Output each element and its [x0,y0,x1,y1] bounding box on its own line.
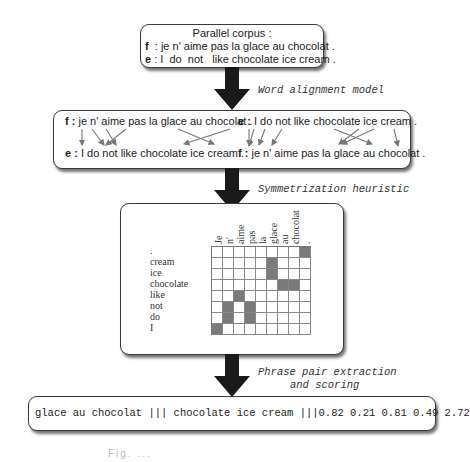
matrix-cell [289,302,300,313]
matrix-cell [245,269,256,280]
matrix-cell [245,280,256,291]
phrase-extraction-label-2: and scoring [290,379,359,391]
matrix-cell [289,258,300,269]
alignment-arrows [54,111,410,168]
matrix-cell [267,302,278,313]
matrix-cell [267,313,278,324]
matrix-cell [278,269,289,280]
matrix-cell [267,269,278,280]
corpus-e-text: : I do not like chocolate ice cream . [151,53,336,65]
matrix-column-label: Je [213,236,224,244]
matrix-cell [300,324,311,335]
matrix-cell [234,302,245,313]
alignment-matrix-grid [211,246,311,335]
matrix-cell [223,302,234,313]
matrix-cell [256,291,267,302]
matrix-column-label: chocolat [290,210,301,244]
matrix-row-label: cream [150,256,174,267]
matrix-cell [256,258,267,269]
matrix-cell [245,313,256,324]
matrix-cell [256,302,267,313]
matrix-row-label: ice [150,267,162,278]
matrix-cell [212,269,223,280]
phrase-pair-box: glace au chocolat ||| chocolate ice crea… [28,396,436,431]
matrix-cell [256,269,267,280]
matrix-cell [212,313,223,324]
matrix-column-label: pas [246,231,257,244]
matrix-column-label: la [257,237,268,244]
matrix-cell [245,324,256,335]
matrix-cell [223,269,234,280]
matrix-cell [267,280,278,291]
matrix-cell [223,247,234,258]
matrix-column-label: au [279,235,290,244]
phrase-extraction-label-1: Phrase pair extraction [258,366,397,378]
parallel-corpus-box: Parallel corpus : f : je n' aime pas la … [140,24,324,68]
symmetrization-label: Symmetrization heuristic [258,183,409,195]
matrix-cell [223,313,234,324]
matrix-row-label: chocolate [150,278,188,289]
matrix-cell [278,280,289,291]
matrix-cell [212,302,223,313]
matrix-row-label: do [150,311,160,322]
matrix-cell [256,313,267,324]
matrix-cell [256,324,267,335]
word-alignment-box: f : je n' aime pas la glace au chocolat … [53,110,411,169]
figure-caption: Fig. ... [108,448,152,459]
matrix-cell [278,291,289,302]
matrix-cell [300,247,311,258]
matrix-cell [300,269,311,280]
matrix-cell [278,324,289,335]
matrix-cell [212,258,223,269]
matrix-cell [267,258,278,269]
matrix-cell [234,313,245,324]
matrix-cell [234,247,245,258]
matrix-cell [234,324,245,335]
matrix-cell [300,302,311,313]
matrix-row-label: . [150,245,153,256]
matrix-cell [223,280,234,291]
matrix-cell [300,280,311,291]
matrix-cell [212,247,223,258]
corpus-f-text: : je n' aime pas la glace au chocolat . [149,40,335,52]
matrix-cell [289,247,300,258]
matrix-cell [212,324,223,335]
matrix-cell [300,291,311,302]
matrix-cell [223,258,234,269]
matrix-cell [245,291,256,302]
matrix-cell [289,280,300,291]
matrix-column-label: . [301,242,312,245]
matrix-row-label: not [150,300,163,311]
matrix-cell [223,324,234,335]
phrase-pair-text: glace au chocolat ||| chocolate ice crea… [35,407,470,419]
matrix-cell [234,258,245,269]
matrix-column-label: n' [224,237,235,244]
matrix-cell [245,258,256,269]
matrix-cell [278,313,289,324]
matrix-cell [289,313,300,324]
matrix-cell [245,302,256,313]
matrix-cell [289,324,300,335]
matrix-cell [267,324,278,335]
matrix-cell [245,247,256,258]
matrix-cell [223,291,234,302]
down-arrow-icon [212,354,252,398]
matrix-cell [278,247,289,258]
matrix-cell [300,258,311,269]
matrix-row-label: like [150,289,165,300]
matrix-row-label: I [150,322,153,333]
parallel-corpus-title: Parallel corpus : [141,27,323,39]
matrix-cell [278,258,289,269]
matrix-cell [267,291,278,302]
matrix-cell [212,291,223,302]
matrix-cell [256,247,267,258]
matrix-cell [289,291,300,302]
word-alignment-label: Word alignment model [258,84,384,96]
down-arrow-icon [212,67,252,111]
matrix-column-label: aime [235,225,246,244]
matrix-cell [300,313,311,324]
matrix-cell [212,280,223,291]
matrix-cell [267,247,278,258]
matrix-cell [278,302,289,313]
matrix-column-label: glace [268,223,279,244]
